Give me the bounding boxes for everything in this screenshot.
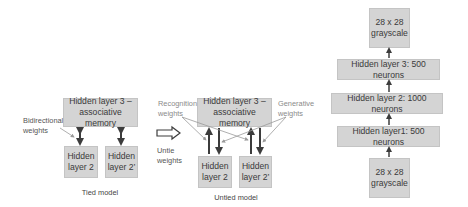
untied-hidden-layer-2prime-box: Hidden layer 2’ (239, 156, 272, 188)
stack-hidden-layer-1-box: Hidden layer1: 500 neurons (337, 126, 440, 147)
untie-weights-label: Untie weights (157, 146, 182, 165)
tied-hidden-layer-2-box: Hidden layer 2 (64, 146, 98, 178)
untied-hidden-layer-3-box: Hidden layer 3 – associative memory (197, 98, 272, 127)
output-line1: 28 x 28 (371, 17, 408, 28)
untied-layer2-line1: Hidden (201, 161, 228, 172)
tied-hidden-layer-2prime-box: Hidden layer 2’ (105, 146, 138, 178)
tied-layer2prime-line1: Hidden (108, 151, 136, 162)
bidirectional-line1: Bidirectional (23, 116, 63, 126)
untied-layer2-line2: layer 2 (201, 172, 228, 183)
untie-arrow-icon (157, 127, 180, 139)
untied-weight-arrows (209, 128, 260, 154)
tied-layer2prime-line2: layer 2’ (108, 162, 136, 173)
generative-weights-label: Generative weights (278, 99, 314, 118)
bidirectional-line2: weights (23, 126, 63, 136)
recognition-line2: weights (158, 109, 197, 119)
tied-layer2-line1: Hidden (67, 151, 94, 162)
generative-line2: weights (278, 109, 314, 119)
tied-hidden-layer-3-box: Hidden layer 3 – associative memory (63, 98, 138, 127)
input-line1: 28 x 28 (371, 167, 408, 178)
output-grayscale-box: 28 x 28 grayscale (369, 8, 410, 48)
tied-hidden-layer-3-line1: Hidden layer 3 – (64, 96, 137, 107)
untie-line1: Untie (157, 146, 182, 156)
input-line2: grayscale (371, 178, 408, 189)
input-grayscale-box: 28 x 28 grayscale (369, 158, 410, 198)
tied-model-caption: Tied model (70, 188, 130, 197)
untie-line2: weights (157, 156, 182, 166)
tied-layer2-line2: layer 2 (67, 162, 94, 173)
untied-hidden-layer-3-line2: associative memory (198, 107, 271, 129)
untied-hidden-layer-2-box: Hidden layer 2 (198, 156, 232, 188)
tied-bidirectional-arrows (80, 131, 121, 142)
output-line2: grayscale (371, 28, 408, 39)
untied-layer2prime-line2: layer 2’ (242, 172, 270, 183)
untied-hidden-layer-3-line1: Hidden layer 3 – (198, 96, 271, 107)
untied-layer2prime-line1: Hidden (242, 161, 270, 172)
generative-line1: Generative (278, 99, 314, 109)
recognition-weights-label: Recognition weights (158, 99, 197, 118)
untied-model-caption: Untied model (204, 193, 268, 202)
tied-hidden-layer-3-line2: associative memory (64, 107, 137, 129)
bidirectional-weights-label: Bidirectional weights (23, 116, 63, 135)
stack-hidden-layer-3-box: Hidden layer 3: 500 neurons (337, 59, 440, 80)
recognition-line1: Recognition (158, 99, 197, 109)
stack-hidden-layer-2-box: Hidden layer 2: 1000 neurons (331, 93, 443, 114)
